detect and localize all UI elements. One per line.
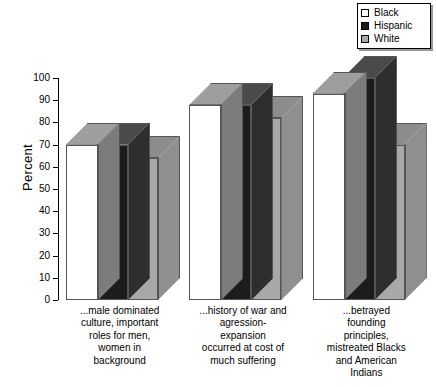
category-label-line: ...history of war and (175, 305, 310, 317)
bar-chart: Black Hispanic White Percent 01020304050… (0, 0, 436, 387)
y-axis-tick-label: 90 (20, 95, 50, 105)
legend-swatch-hispanic-icon (361, 22, 369, 30)
category-label-line: mistreated Blacks (299, 342, 434, 354)
bar-side-face (221, 83, 243, 300)
category-label: ...male dominatedculture, importantroles… (52, 305, 187, 367)
bar-group (58, 78, 181, 300)
category-label-line: roles for men, (52, 330, 187, 342)
bar-side-face (281, 96, 303, 300)
category-label-line: occurred at cost of (175, 342, 310, 354)
category-label-line: ...male dominated (52, 305, 187, 317)
legend-item-hispanic: Hispanic (361, 19, 427, 32)
category-label-line: much suffering (175, 355, 310, 367)
bar-group (181, 78, 304, 300)
bar-black (313, 72, 367, 300)
y-axis-tick-label: 30 (20, 228, 50, 238)
category-label-line: culture, important (52, 317, 187, 329)
y-axis-tick-label: 80 (20, 117, 50, 127)
y-axis-tick-label: 100 (20, 73, 50, 83)
x-axis-category-labels: ...male dominatedculture, importantroles… (58, 305, 428, 385)
bar-group (305, 78, 428, 300)
category-label-line: principles, (299, 330, 434, 342)
legend-label-hispanic: Hispanic (374, 19, 412, 32)
legend-swatch-white-icon (361, 35, 369, 43)
category-label-line: women in (52, 342, 187, 354)
legend-label-black: Black (374, 6, 398, 19)
bar-side-face (375, 56, 397, 300)
chart-legend: Black Hispanic White (357, 3, 431, 49)
bar-side-face (128, 123, 150, 300)
y-axis-tick-label: 10 (20, 273, 50, 283)
bar-front-face (189, 105, 221, 300)
bar-black (189, 83, 243, 300)
bar-front-face (66, 145, 98, 300)
category-label-line: agression- (175, 317, 310, 329)
y-axis-tick-label: 70 (20, 140, 50, 150)
category-label-line: Indians (299, 367, 434, 379)
y-axis-tick-label: 40 (20, 206, 50, 216)
bar-side-face (158, 136, 180, 300)
category-label-line: expansion (175, 330, 310, 342)
y-axis-tick-label: 50 (20, 184, 50, 194)
category-label-line: ...betrayed (299, 305, 434, 317)
category-label-line: background (52, 355, 187, 367)
y-axis-tick-label: 20 (20, 251, 50, 261)
plot-area (58, 78, 428, 300)
bar-side-face (405, 123, 427, 300)
y-axis-tick-label: 60 (20, 162, 50, 172)
y-axis-tick-mark (53, 300, 58, 301)
bar-side-face (98, 123, 120, 300)
category-label: ...history of war andagression-expansion… (175, 305, 310, 367)
legend-swatch-black-icon (361, 9, 369, 17)
y-axis-tick-label: 0 (20, 295, 50, 305)
bar-side-face (251, 83, 273, 300)
category-label: ...betrayedfoundingprinciples,mistreated… (299, 305, 434, 379)
bar-black (66, 123, 120, 300)
legend-label-white: White (374, 32, 400, 45)
category-label-line: founding (299, 317, 434, 329)
legend-item-white: White (361, 32, 427, 45)
y-axis-ticks: 0102030405060708090100 (22, 72, 58, 306)
bar-side-face (345, 72, 367, 300)
legend-item-black: Black (361, 6, 427, 19)
bar-front-face (313, 94, 345, 300)
category-label-line: and American (299, 355, 434, 367)
